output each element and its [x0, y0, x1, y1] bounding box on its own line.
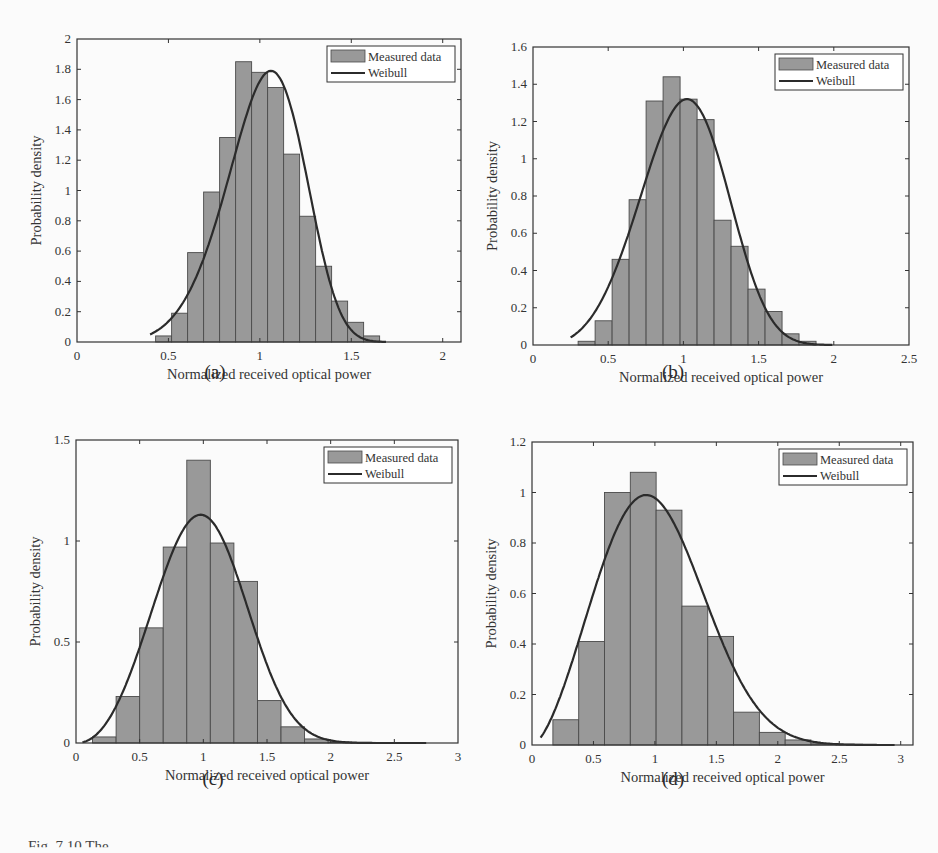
legend-label-weibull: Weibull	[820, 469, 860, 483]
x-tick-label: 3	[455, 749, 462, 764]
x-tick-label: 0	[529, 751, 536, 766]
histogram-bar	[257, 701, 281, 743]
histogram-bar	[595, 321, 612, 345]
y-tick-label: 1	[520, 485, 527, 500]
x-tick-label: 2.5	[386, 749, 402, 764]
histogram-bar	[605, 493, 631, 746]
legend-label-weibull: Weibull	[816, 74, 856, 88]
y-tick-label: 0.8	[510, 535, 526, 550]
x-tick-label: 1	[257, 348, 264, 363]
x-tick-label: 2.5	[901, 351, 917, 366]
histogram-bar	[140, 628, 164, 743]
figure-caption: Fig. 7.10 The ...	[28, 838, 124, 853]
legend-label-weibull: Weibull	[368, 66, 408, 80]
y-tick-label: 0	[521, 337, 528, 352]
histogram-bar	[680, 99, 697, 345]
histogram-bar	[553, 720, 579, 745]
legend: Measured dataWeibull	[327, 46, 455, 82]
y-tick-label: 1	[65, 183, 72, 198]
y-tick-label: 0	[64, 735, 71, 750]
histogram-bar	[656, 510, 682, 745]
histogram-bar	[234, 581, 258, 743]
x-tick-label: 3	[897, 751, 904, 766]
histogram-bars	[578, 77, 816, 345]
legend-label-measured: Measured data	[816, 58, 890, 72]
subplot-c: 00.511.522.5300.511.5Normalized received…	[16, 430, 468, 807]
x-tick-label: 2	[775, 751, 782, 766]
legend: Measured dataWeibull	[775, 54, 903, 90]
histogram-bars	[553, 472, 889, 745]
x-tick-label: 2	[439, 348, 446, 363]
legend: Measured dataWeibull	[779, 449, 907, 485]
y-tick-label: 0.2	[55, 304, 71, 319]
legend-swatch-measured	[331, 50, 365, 62]
histogram-bar	[748, 289, 765, 345]
x-tick-label: 0.5	[132, 749, 148, 764]
histogram-bar	[252, 72, 268, 342]
y-tick-label: 1.2	[55, 152, 71, 167]
legend-swatch-measured	[783, 453, 817, 465]
legend-swatch-measured	[328, 451, 362, 463]
histogram-bar	[116, 697, 140, 743]
y-tick-label: 1.6	[55, 92, 72, 107]
y-tick-label: 0.8	[55, 213, 71, 228]
subplot-b: 00.511.522.500.20.40.60.811.21.41.6Norma…	[473, 37, 919, 409]
histogram-bar	[734, 712, 760, 745]
y-tick-label: 0.4	[510, 636, 527, 651]
histogram-bar	[708, 636, 734, 745]
subplot-label-a: (a)	[185, 361, 245, 383]
x-tick-label: 1.5	[708, 751, 724, 766]
y-tick-label: 0.6	[510, 586, 527, 601]
histogram-bars	[156, 62, 380, 342]
legend-label-measured: Measured data	[820, 453, 894, 467]
y-tick-label: 1.6	[511, 39, 528, 54]
y-tick-label: 1.5	[54, 432, 70, 447]
x-tick-label: 0	[530, 351, 537, 366]
x-tick-label: 1	[652, 751, 659, 766]
histogram-bar	[210, 543, 234, 743]
legend-label-measured: Measured data	[365, 451, 439, 465]
y-tick-label: 0.6	[511, 225, 528, 240]
x-tick-label: 1.5	[259, 749, 275, 764]
y-tick-label: 1.2	[510, 434, 526, 449]
x-tick-label: 2.5	[831, 751, 847, 766]
y-tick-label: 1.2	[511, 114, 527, 129]
subplot-label-b: (b)	[643, 361, 703, 383]
histogram-bar	[187, 460, 211, 743]
subplot-label-c: (c)	[183, 768, 243, 790]
y-axis-label: Probability density	[27, 536, 43, 647]
x-tick-label: 0.5	[160, 348, 176, 363]
x-tick-label: 0.5	[600, 351, 616, 366]
histogram-bar	[731, 246, 748, 345]
subplot-a: 00.511.5200.20.40.60.811.21.41.61.82Norm…	[17, 29, 471, 406]
y-tick-label: 1	[64, 533, 71, 548]
subplot-label-d: (d)	[643, 768, 703, 790]
y-tick-label: 0	[520, 737, 527, 752]
histogram-bar	[172, 313, 188, 342]
histogram-bar	[682, 606, 708, 745]
y-tick-label: 2	[65, 31, 72, 46]
x-tick-label: 2	[831, 351, 838, 366]
legend-swatch-measured	[779, 58, 813, 70]
y-tick-label: 0.5	[54, 634, 70, 649]
subplot-d: 00.511.522.5300.20.40.60.811.2Normalized…	[472, 432, 923, 809]
histogram-bar	[697, 120, 714, 345]
x-tick-label: 1	[200, 749, 207, 764]
y-tick-label: 0	[65, 334, 72, 349]
histogram-bar	[284, 154, 300, 342]
histogram-bar	[268, 87, 284, 342]
histogram-bar	[220, 137, 236, 342]
y-tick-label: 0.8	[511, 188, 527, 203]
y-tick-label: 0.4	[55, 273, 72, 288]
x-tick-label: 1.5	[750, 351, 766, 366]
y-tick-label: 0.2	[511, 300, 527, 315]
y-tick-label: 1.4	[55, 122, 72, 137]
y-axis-label: Probability density	[484, 140, 500, 251]
y-tick-label: 0.6	[55, 243, 72, 258]
x-tick-label: 0.5	[585, 751, 601, 766]
y-tick-label: 1	[521, 151, 528, 166]
histogram-bar	[281, 727, 305, 743]
histogram-bar	[579, 641, 605, 745]
y-tick-label: 1.4	[511, 76, 528, 91]
histogram-bar	[759, 732, 785, 745]
